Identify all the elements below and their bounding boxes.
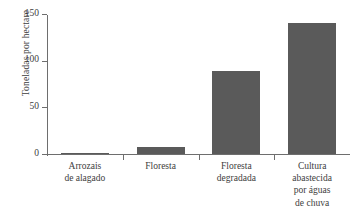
y-tick: 50 — [42, 107, 47, 108]
category-label-line: de alagado — [47, 172, 123, 184]
category-label: Floresta — [123, 160, 199, 172]
y-tick-label: 0 — [34, 148, 39, 158]
plot-area: 050100150 — [47, 15, 350, 155]
category-label: Arrozaisde alagado — [47, 160, 123, 184]
category-label-line: por águas — [274, 184, 350, 196]
y-tick-label: 150 — [25, 8, 39, 18]
category-label-line: Cultura — [274, 160, 350, 172]
category-label-line: Floresta — [123, 160, 199, 172]
category-label-line: Arrozais — [47, 160, 123, 172]
category-label-line: degradada — [199, 172, 275, 184]
category-label: Florestadegradada — [199, 160, 275, 184]
y-tick: 150 — [42, 14, 47, 15]
y-tick-label: 100 — [25, 54, 39, 64]
y-tick-label: 50 — [30, 101, 40, 111]
x-axis-category-labels: Arrozaisde alagadoFlorestaFlorestadegrad… — [47, 160, 350, 214]
y-tick: 0 — [42, 154, 47, 155]
category-label: Culturaabastecidapor águasde chuva — [274, 160, 350, 209]
bar — [61, 153, 109, 155]
category-label-line: abastecida — [274, 172, 350, 184]
y-tick: 100 — [42, 61, 47, 62]
bar — [212, 71, 260, 154]
bar — [288, 23, 336, 154]
y-axis-line — [47, 15, 48, 156]
bar — [137, 147, 185, 154]
bar-chart: Toneladas por hectare 050100150 Arrozais… — [0, 0, 363, 214]
category-label-line: de chuva — [274, 197, 350, 209]
category-label-line: Floresta — [199, 160, 275, 172]
